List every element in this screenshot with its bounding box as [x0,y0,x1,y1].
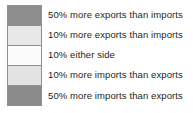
legend-item-label: 50% more exports than imports [48,5,193,25]
legend-swatch [8,6,41,26]
legend-swatch [8,46,41,66]
legend-swatch [8,86,41,105]
legend-swatch [8,26,41,46]
legend-swatch-column [7,5,42,106]
legend-item-label: 10% more imports than exports [48,66,193,86]
legend-item-label: 50% more imports than exports [48,86,193,106]
legend-item-label: 10% either side [48,45,193,65]
legend-label-column: 50% more exports than imports 10% more e… [48,5,193,106]
legend-swatch [8,66,41,86]
legend-panel: 50% more exports than imports 10% more e… [0,0,193,113]
legend-item-label: 10% more exports than imports [48,25,193,45]
